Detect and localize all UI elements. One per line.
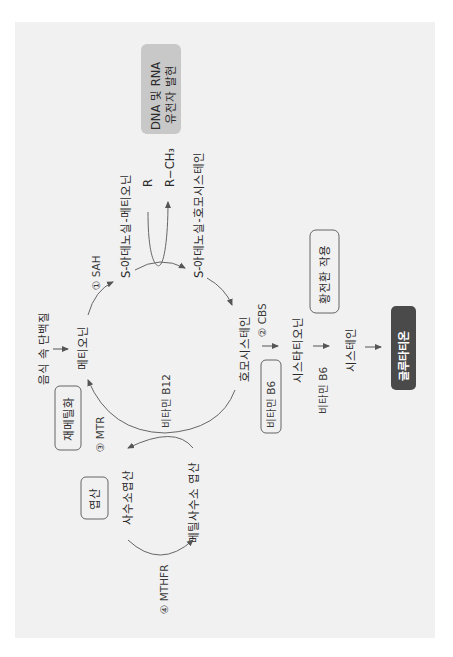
dietary-protein-label: 음식 속 단백질: [37, 312, 51, 385]
enzyme-mthfr: ④ MTHFR: [158, 565, 170, 614]
enzyme-sah: ① SAH: [90, 255, 102, 290]
methionine-cycle-diagram: DNA 및 RNA 유전자 발현 R R−CH₃ S-아데노실-메티오닌 S-아…: [0, 0, 453, 657]
r-ch3-label: R−CH₃: [163, 148, 177, 187]
homocysteine-label: 호모시스테인: [238, 316, 252, 382]
methionine-label: 메티오닌: [76, 326, 90, 370]
r-label: R: [141, 179, 155, 187]
thf-label: 사수소엽산: [121, 470, 135, 525]
enzyme-mtr: ③ MTR: [94, 416, 106, 452]
transsulfuration-label: 황전환 작용: [318, 245, 332, 304]
cysteine-label: 시스테인: [344, 328, 358, 372]
glutathione-label: 글루타티온: [397, 331, 411, 381]
methylthf-to-thf-arrow: [128, 437, 193, 449]
thf-to-methylthf-arrow: [128, 540, 193, 555]
sah-to-hcy-arrow: [207, 278, 232, 305]
remethylation-label: 재메틸화: [62, 397, 76, 441]
enzyme-cbs: ② CBS: [256, 303, 268, 337]
sam-label: S-아데노실-메티오닌: [119, 174, 133, 278]
sam-to-sah-arrow: [135, 262, 185, 270]
methyl-thf-label: 메틸사수소 엽산: [187, 462, 201, 543]
methyl-transfer-arrow: [148, 202, 168, 266]
dna-rna-line2: 유전자 발현: [164, 65, 178, 124]
vitamin-b12-label: 비타민 B12: [160, 374, 172, 428]
vitamin-b6-box-label: 비타민 B6: [265, 380, 277, 428]
sah-label: S-아데노실-호모시스테인: [192, 152, 206, 278]
vitamin-b6-label: 비타민 B6: [317, 366, 329, 414]
folate-label: 엽산: [88, 488, 102, 510]
dna-rna-line1: DNA 및 RNA: [149, 62, 163, 130]
cystathionine-label: 시스타티오닌: [291, 317, 305, 383]
